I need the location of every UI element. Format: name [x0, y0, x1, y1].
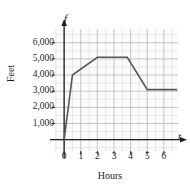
- chart-figure: f t Feet Hours 1,0002,0003,0004,0005,000…: [0, 0, 190, 190]
- plot-area: [0, 0, 190, 190]
